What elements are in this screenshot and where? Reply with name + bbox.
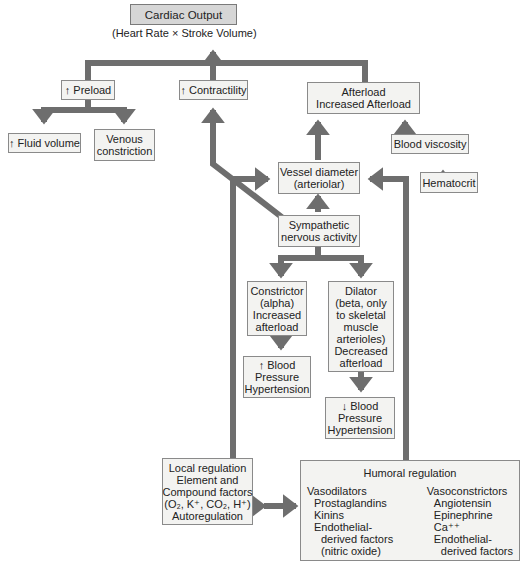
blood-viscosity-label: Blood viscosity — [394, 138, 467, 150]
afterload-box: Afterload Increased Afterload — [307, 82, 420, 114]
vasoconstrictor-item-cont: derived factors — [427, 545, 513, 557]
bp-down-label-3: Hypertension — [328, 424, 393, 436]
hematocrit-box: Hematocrit — [420, 172, 478, 193]
preload-label: ↑ Preload — [65, 84, 111, 96]
local-label-2: Element and — [177, 474, 239, 486]
dilator-label-1: Dilator — [345, 285, 377, 297]
dilator-label-7: afterload — [340, 357, 383, 369]
sympathetic-label-2: nervous activity — [281, 231, 357, 243]
afterload-label-1: Afterload — [341, 86, 385, 98]
vasoconstrictors-heading: Vasoconstrictors — [427, 485, 513, 497]
venous-constriction-box: Venous constriction — [94, 129, 155, 161]
contractility-box: ↑ Contractility — [179, 80, 248, 100]
bp-down-label-2: Pressure — [338, 412, 382, 424]
vasoconstrictor-item: Angiotensin — [427, 497, 513, 509]
constrictor-label-2: (alpha) — [260, 297, 294, 309]
vessel-diameter-label-1: Vessel diameter — [280, 166, 358, 178]
cardiac-output-formula: (Heart Rate × Stroke Volume) — [112, 27, 257, 39]
venous-label-2: constriction — [97, 145, 153, 157]
constrictor-box: Constrictor (alpha) Increased afterload — [247, 281, 307, 336]
dilator-label-5: arterioles) — [337, 333, 386, 345]
local-label-4: (O₂, K⁺, CO₂, H⁺) — [164, 498, 251, 510]
fluid-volume-box: ↑ Fluid volume — [8, 133, 81, 153]
dilator-label-4: muscle — [344, 321, 379, 333]
vasodilator-item: Endothelial- — [307, 521, 393, 533]
vasoconstrictor-item: Epinephrine — [427, 509, 513, 521]
sympathetic-box: Sympathetic nervous activity — [278, 215, 360, 247]
bp-increase-box: ↑ Blood Pressure Hypertension — [243, 356, 311, 398]
hematocrit-label: Hematocrit — [422, 177, 475, 189]
cardiac-output-label: Cardiac Output — [145, 9, 222, 21]
bp-decrease-box: ↓ Blood Pressure Hypertension — [325, 397, 395, 439]
humoral-title: Humoral regulation — [307, 467, 513, 479]
bp-up-label-2: Pressure — [255, 371, 299, 383]
venous-label-1: Venous — [106, 133, 143, 145]
afterload-label-2: Increased Afterload — [316, 98, 411, 110]
vessel-diameter-label-2: (arteriolar) — [294, 178, 345, 190]
local-label-5: Autoregulation — [172, 510, 243, 522]
vasoconstrictor-item: Ca⁺⁺ — [427, 521, 513, 533]
vasoconstrictor-item: Endothelial- — [427, 533, 513, 545]
vasodilator-item-cont: derived factors — [307, 533, 393, 545]
cardiac-output-box: Cardiac Output — [130, 4, 237, 25]
fluid-volume-label: ↑ Fluid volume — [9, 137, 80, 149]
vessel-diameter-box: Vessel diameter (arteriolar) — [278, 162, 360, 194]
sympathetic-label-1: Sympathetic — [289, 219, 350, 231]
local-label-3: Compound factors — [163, 486, 253, 498]
local-label-1: Local regulation — [169, 462, 247, 474]
constrictor-label-4: afterload — [256, 321, 299, 333]
dilator-label-2: (beta, only — [335, 297, 386, 309]
vasodilator-item-cont: (nitric oxide) — [307, 545, 393, 557]
bp-down-label-1: ↓ Blood — [342, 400, 379, 412]
dilator-box: Dilator (beta, only to skeletal muscle a… — [328, 281, 394, 372]
humoral-regulation-box: Humoral regulation Vasodilators Prostagl… — [300, 460, 520, 561]
vasodilators-heading: Vasodilators — [307, 485, 393, 497]
dilator-label-3: to skeletal — [336, 309, 386, 321]
bp-up-label-1: ↑ Blood — [259, 359, 296, 371]
constrictor-label-1: Constrictor — [250, 285, 303, 297]
constrictor-label-3: Increased — [253, 309, 301, 321]
blood-viscosity-box: Blood viscosity — [391, 134, 469, 154]
vasoconstrictors-list: Vasoconstrictors Angiotensin Epinephrine… — [427, 485, 513, 557]
preload-box: ↑ Preload — [61, 80, 115, 100]
contractility-label: ↑ Contractility — [180, 84, 246, 96]
local-regulation-box: Local regulation Element and Compound fa… — [162, 458, 253, 525]
vasodilators-list: Vasodilators Prostaglandins Kinins Endot… — [307, 485, 393, 557]
vasodilator-item: Prostaglandins — [307, 497, 393, 509]
vasodilator-item: Kinins — [307, 509, 393, 521]
bp-up-label-3: Hypertension — [245, 383, 310, 395]
dilator-label-6: Decreased — [334, 345, 387, 357]
